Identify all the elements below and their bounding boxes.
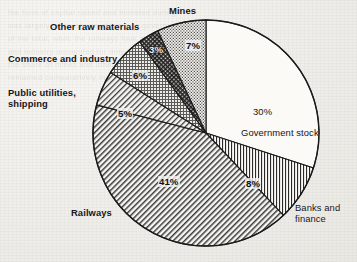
government-stock-text-inline: Government stock [241, 128, 319, 139]
slice-label-public-utilities-shipping: Public utilities, shipping [8, 88, 76, 109]
slice-label-railways: Railways [71, 208, 112, 219]
slice-label-government-stock: 30% Government stock [241, 96, 319, 149]
slice-pct-public-utilities-shipping: 5% [117, 108, 133, 119]
slice-label-mines: Mines [169, 6, 196, 17]
government-stock-pct-inline: 30% [253, 107, 319, 118]
slice-pct-mines: 7% [185, 40, 201, 51]
slice-label-other-raw-materials: Other raw materials [50, 22, 139, 33]
slice-pct-banks-and-finance: 8% [245, 178, 261, 189]
slice-label-commerce-and-industry: Commerce and industry [8, 54, 117, 65]
slice-pct-commerce-and-industry: 6% [132, 70, 148, 81]
slice-label-banks-and-finance: Banks and finance [295, 203, 340, 224]
slice-pct-railways: 41% [158, 176, 180, 187]
slice-pct-other-raw-materials: 3% [148, 44, 164, 55]
